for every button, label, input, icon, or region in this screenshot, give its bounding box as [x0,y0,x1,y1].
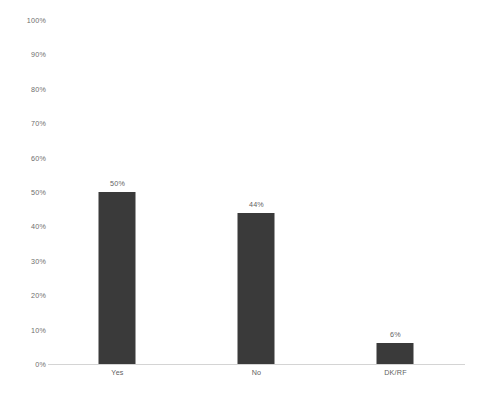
y-axis-tick-label: 60% [6,153,46,162]
y-axis-tick-label: 30% [6,256,46,265]
x-axis-tick-label: Yes [111,368,123,377]
bar-value-label: 44% [249,200,264,209]
bar-value-label: 6% [390,330,401,339]
y-axis-tick-label: 100% [6,16,46,25]
bar-chart: 0%10%20%30%40%50%60%70%80%90%100% 50%44%… [0,0,488,400]
y-axis-tick-label: 80% [6,84,46,93]
x-axis-tick-label: DK/RF [384,368,407,377]
bars-layer: 50%44%6% [48,20,465,364]
y-axis-tick-label: 10% [6,325,46,334]
y-axis-tick-label: 90% [6,50,46,59]
x-axis-tick-label: No [252,368,262,377]
bar[interactable] [99,192,136,364]
y-axis: 0%10%20%30%40%50%60%70%80%90%100% [0,20,46,364]
y-axis-tick-label: 20% [6,291,46,300]
x-axis-line [48,364,465,365]
x-axis: YesNoDK/RF [48,368,465,388]
bar[interactable] [238,213,275,364]
bar-group: 6% [326,20,465,364]
y-axis-tick-label: 70% [6,119,46,128]
y-axis-tick-label: 50% [6,188,46,197]
y-axis-tick-label: 0% [6,360,46,369]
bar-group: 50% [48,20,187,364]
bar-group: 44% [187,20,326,364]
bar-value-label: 50% [110,179,125,188]
y-axis-tick-label: 40% [6,222,46,231]
bar[interactable] [377,343,414,364]
